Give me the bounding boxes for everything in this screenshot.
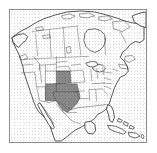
florida-peninsula [107, 105, 115, 123]
highlight-state-kansas-colorado[interactable] [56, 71, 71, 84]
hispaniola-island [128, 132, 140, 138]
north-america-map[interactable] [10, 10, 146, 142]
map-figure [0, 0, 157, 153]
cuba-island [108, 125, 127, 134]
highlight-state-oklahoma[interactable] [53, 84, 79, 92]
yucatan-peninsula [85, 121, 96, 134]
lesser-antilles [141, 134, 144, 139]
bahamas-islands [117, 118, 134, 129]
map-plot-frame [9, 9, 147, 143]
newfoundland [124, 55, 135, 62]
